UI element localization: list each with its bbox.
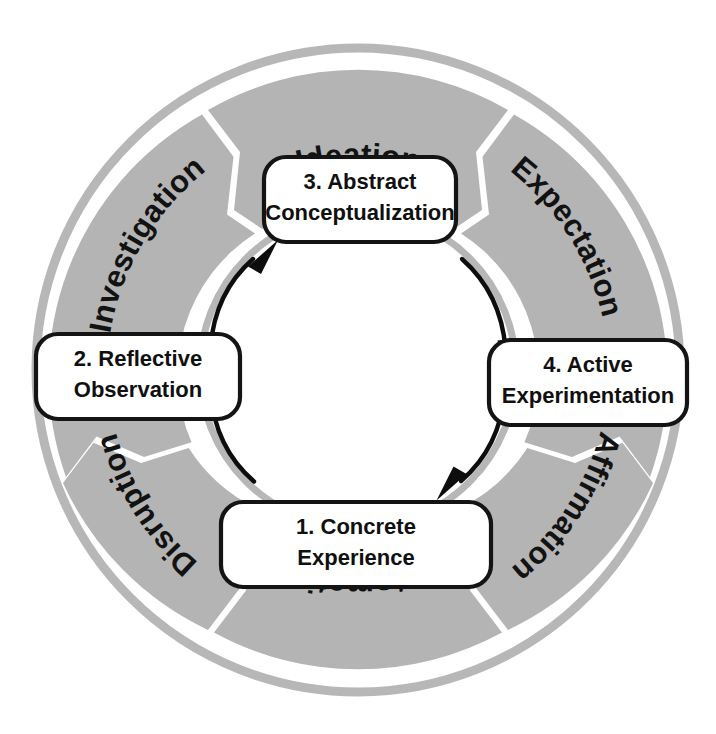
stage-label-reflective-line1: 2. Reflective [74,346,202,371]
stage-label-abstract-line2: Conceptualization [265,200,454,225]
inner-thin-ring [200,212,516,528]
cycle-diagram-canvas: Ideation Expectation Affirmation Automat… [0,0,716,734]
flow-arrows-group [203,240,514,501]
stage-box-concrete-experience[interactable]: 1. Concrete Experience [221,502,491,587]
stage-label-reflective-line2: Observation [74,377,202,402]
stage-box-abstract-conceptualization[interactable]: 3. Abstract Conceptualization [264,157,456,242]
stage-label-concrete-line1: 1. Concrete [296,514,416,539]
experiential-learning-cycle-diagram: Ideation Expectation Affirmation Automat… [0,0,716,734]
stage-box-reflective-observation[interactable]: 2. Reflective Observation [36,334,240,419]
stage-label-abstract-line1: 3. Abstract [304,169,418,194]
stage-box-active-experimentation[interactable]: 4. Active Experimentation [489,340,687,425]
stage-label-active-line2: Experimentation [502,383,674,408]
stage-label-concrete-line2: Experience [297,545,414,570]
stage-label-active-line1: 4. Active [543,352,633,377]
